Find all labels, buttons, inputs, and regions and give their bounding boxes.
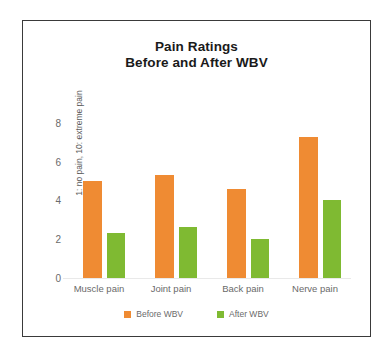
y-axis-tick-label: 2 [33, 234, 61, 245]
y-axis-ticks: 02468 [23, 21, 61, 338]
y-axis-tick-label: 6 [33, 156, 61, 167]
bar-group [299, 121, 343, 278]
chart-frame: Pain Ratings Before and After WBV 1: no … [22, 20, 371, 337]
bar-before-wbv[interactable] [227, 189, 246, 278]
bar-before-wbv[interactable] [299, 137, 318, 278]
chart-title-line-1: Pain Ratings [23, 39, 370, 55]
legend-item[interactable]: Before WBV [124, 309, 183, 319]
bar-after-wbv[interactable] [107, 233, 125, 278]
legend-swatch-icon [217, 311, 224, 318]
legend-label: Before WBV [136, 309, 183, 319]
x-axis-baseline [63, 278, 351, 279]
y-axis-tick-label: 0 [33, 273, 61, 284]
bar-before-wbv[interactable] [155, 175, 174, 278]
y-axis-tick-label: 4 [33, 195, 61, 206]
bar-group [227, 121, 271, 278]
plot-area [63, 121, 351, 278]
bar-after-wbv[interactable] [323, 200, 341, 278]
x-axis-category-label: Nerve pain [279, 283, 351, 294]
x-axis-category-label: Joint pain [135, 283, 207, 294]
x-axis-category-label: Back pain [207, 283, 279, 294]
legend-item[interactable]: After WBV [217, 309, 269, 319]
legend-swatch-icon [124, 311, 131, 318]
chart-legend: Before WBVAfter WBV [23, 309, 370, 319]
bar-after-wbv[interactable] [179, 227, 197, 278]
y-axis-tick-label: 8 [33, 117, 61, 128]
bar-group [155, 121, 199, 278]
legend-label: After WBV [229, 309, 269, 319]
bar-after-wbv[interactable] [251, 239, 269, 278]
chart-title: Pain Ratings Before and After WBV [23, 39, 370, 71]
bar-group [83, 121, 127, 278]
x-axis-category-label: Muscle pain [63, 283, 135, 294]
chart-title-line-2: Before and After WBV [23, 55, 370, 71]
bar-before-wbv[interactable] [83, 181, 102, 278]
